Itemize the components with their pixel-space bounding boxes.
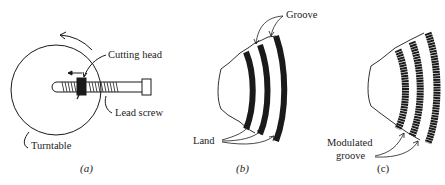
label-groove: Groove bbox=[286, 10, 318, 21]
modulated-groove-1 bbox=[398, 50, 406, 129]
cutting-head-block bbox=[77, 78, 86, 95]
label-turntable: Turntable bbox=[31, 141, 71, 152]
lead-screw-cap bbox=[142, 79, 151, 95]
label-land: Land bbox=[193, 136, 215, 147]
turntable-circle bbox=[11, 45, 101, 135]
groove-3 bbox=[276, 36, 284, 141]
caption-b: (b) bbox=[236, 163, 249, 174]
caption-c: (c) bbox=[377, 163, 389, 174]
diagram-drawing bbox=[0, 0, 445, 185]
label-groove-c: groove bbox=[336, 151, 365, 162]
rotation-arrow-icon bbox=[60, 35, 92, 50]
label-cutting-head: Cutting head bbox=[108, 50, 162, 61]
groove-1 bbox=[246, 52, 253, 129]
panel-c-drawing bbox=[368, 33, 437, 157]
lead-screw-threads bbox=[62, 82, 118, 92]
modulated-groove-2 bbox=[412, 42, 420, 136]
record-cutting-diagram: Cutting head Lead screw Turntable (a) Gr… bbox=[0, 0, 445, 185]
label-lead-screw: Lead screw bbox=[115, 108, 163, 119]
groove-2 bbox=[260, 45, 268, 134]
modulated-groove-3 bbox=[428, 33, 437, 143]
panel-b-drawing bbox=[218, 16, 284, 144]
caption-a: (a) bbox=[80, 163, 93, 174]
label-modulated: Modulated bbox=[327, 138, 373, 149]
